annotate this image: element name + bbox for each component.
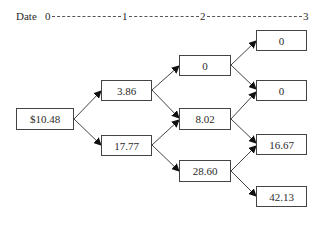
node-date2-upup: 0 [179, 55, 231, 76]
node-date3-uud: 0 [256, 80, 307, 101]
node-value: 42.13 [269, 191, 294, 203]
node-value: 0 [279, 35, 285, 47]
arrow-n0-n1u [74, 91, 101, 119]
node-date0-root: $10.48 [16, 108, 74, 130]
arrow-n2uu-n3uud [231, 65, 256, 89]
arrow-n1d-n2ud [152, 120, 179, 145]
node-date3-uuu: 0 [256, 30, 307, 51]
node-value: 3.86 [117, 85, 136, 97]
arrow-n2uu-n3uuu [231, 41, 256, 65]
node-value: 0 [279, 85, 285, 97]
node-date3-ddd: 42.13 [256, 186, 307, 207]
arrow-n0-n1d [74, 119, 101, 145]
node-date1-up: 3.86 [101, 80, 152, 101]
arrow-n1u-n2uu [152, 66, 179, 90]
node-value: $10.48 [30, 113, 60, 125]
node-value: 28.60 [193, 165, 218, 177]
arrow-n2ud-n3uud [231, 92, 256, 119]
node-date2-downdown: 28.60 [179, 160, 231, 182]
node-date3-udd: 16.67 [256, 134, 307, 155]
node-value: 8.02 [195, 113, 214, 125]
node-value: 0 [202, 60, 208, 72]
arrow-n2ud-n3udd [231, 119, 256, 143]
arrow-n2dd-n3udd [231, 146, 256, 171]
arrow-n1d-n2dd [152, 145, 179, 171]
arrow-n2dd-n3ddd [231, 171, 256, 196]
arrow-n1u-n2ud [152, 90, 179, 118]
node-date1-down: 17.77 [101, 135, 152, 156]
node-value: 16.67 [269, 139, 294, 151]
node-value: 17.77 [114, 140, 139, 152]
node-date2-updown: 8.02 [179, 108, 231, 130]
